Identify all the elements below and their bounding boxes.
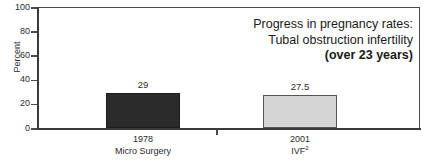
y-tick-label-60-wrap: 60 — [0, 51, 30, 60]
chart-container: Percent 100 80 60 40 20 0 Progress in pr… — [0, 0, 433, 167]
y-tick-20 — [31, 104, 37, 106]
y-tick-label-80: 80 — [0, 27, 30, 36]
y-tick-60 — [31, 55, 37, 57]
y-tick-label-100-wrap: 100 — [0, 3, 30, 12]
x-category-label-1978: 1978 Micro Surgery — [103, 134, 183, 157]
chart-title: Progress in pregnancy rates: Tubal obstr… — [222, 17, 413, 64]
y-tick-label-100: 100 — [0, 3, 30, 12]
x-category-year-1978: 1978 — [133, 134, 153, 144]
bar-1978-micro-surgery[interactable] — [106, 93, 180, 128]
y-axis-line — [37, 7, 39, 130]
y-tick-label-0: 0 — [0, 124, 30, 133]
chart-title-line-2: Tubal obstruction infertility — [222, 33, 413, 49]
y-tick-0 — [31, 128, 37, 130]
y-tick-100 — [31, 7, 37, 9]
y-tick-label-80-wrap: 80 — [0, 27, 30, 36]
x-category-method-2001: IVF2 — [260, 146, 340, 158]
y-tick-label-40-wrap: 40 — [0, 75, 30, 84]
y-tick-label-60: 60 — [0, 51, 30, 60]
bar-2001-ivf[interactable] — [263, 95, 337, 129]
x-category-footnote-2001: 2 — [305, 145, 308, 151]
y-tick-label-40: 40 — [0, 75, 30, 84]
x-category-label-2001: 2001 IVF2 — [260, 134, 340, 157]
bar-value-label-2001: 27.5 — [263, 82, 337, 92]
bar-value-label-1978: 29 — [106, 80, 180, 90]
x-axis-line — [37, 128, 421, 130]
x-category-method-1978: Micro Surgery — [103, 146, 183, 158]
y-tick-80 — [31, 31, 37, 33]
chart-title-line-1: Progress in pregnancy rates: — [222, 17, 413, 33]
y-tick-label-0-wrap: 0 — [0, 124, 30, 133]
y-tick-40 — [31, 80, 37, 82]
chart-title-line-3: (over 23 years) — [222, 48, 413, 64]
y-tick-label-20-wrap: 20 — [0, 99, 30, 108]
y-tick-label-20: 20 — [0, 99, 30, 108]
x-category-method-2001-text: IVF — [291, 146, 305, 156]
x-tick-center — [216, 130, 218, 135]
x-category-year-2001: 2001 — [290, 134, 310, 144]
